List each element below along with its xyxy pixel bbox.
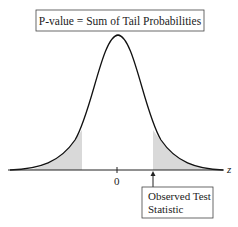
callout-line1: Observed Test <box>148 190 211 202</box>
left-tail-shade <box>30 130 82 170</box>
z-axis-label: z <box>226 163 232 175</box>
zero-label: 0 <box>114 175 120 187</box>
callout-line2: Statistic <box>148 203 184 215</box>
p-value-diagram: z 0 P-value = Sum of Tail Probabilities … <box>0 0 238 227</box>
arrow-head-icon <box>151 171 156 176</box>
right-tail-shade <box>153 130 215 170</box>
title-text: P-value = Sum of Tail Probabilities <box>39 15 202 27</box>
normal-curve <box>10 35 223 170</box>
